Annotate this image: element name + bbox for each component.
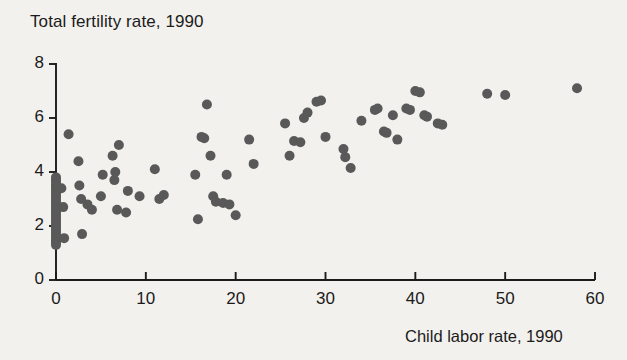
data-point [114,140,124,150]
data-point [382,128,392,138]
data-point [316,95,326,105]
y-tick-label-6: 6 [10,107,44,127]
scatter-plot-figure: Total fertility rate, 1990 Child labor r… [0,0,627,360]
x-tick-label-10: 10 [121,289,171,309]
data-point [112,205,122,215]
data-point [373,104,383,114]
data-point [199,133,209,143]
data-point [572,83,582,93]
data-points [51,83,582,250]
data-point [110,167,120,177]
data-point [121,208,131,218]
x-tick-label-30: 30 [301,289,351,309]
data-point [356,116,366,126]
data-point [74,181,84,191]
x-tick-label-40: 40 [390,289,440,309]
x-tick-label-0: 0 [31,289,81,309]
data-point [280,118,290,128]
data-point [58,202,68,212]
data-point [415,87,425,97]
data-point [193,214,203,224]
data-point [249,159,259,169]
data-point [98,170,108,180]
x-tick-label-50: 50 [480,289,530,309]
data-point [190,170,200,180]
data-point [437,120,447,130]
data-point [87,205,97,215]
data-point [321,132,331,142]
y-tick-label-8: 8 [10,53,44,73]
y-tick-label-2: 2 [10,215,44,235]
data-point [73,156,83,166]
data-point [388,110,398,120]
data-point [231,210,241,220]
x-tick-label-20: 20 [211,289,261,309]
data-point [64,129,74,139]
data-point [59,233,69,243]
data-point [244,135,254,145]
data-point [295,137,305,147]
data-point [150,164,160,174]
data-point [392,135,402,145]
data-point [222,170,232,180]
data-point [56,183,66,193]
data-point [123,186,133,196]
data-point [285,151,295,161]
data-point [96,191,106,201]
data-point [77,229,87,239]
data-point [108,151,118,161]
data-point [224,199,234,209]
data-point [340,152,350,162]
data-point [500,90,510,100]
data-point [159,190,169,200]
y-tick-label-0: 0 [10,269,44,289]
data-point [346,163,356,173]
data-point [51,240,61,250]
data-point [303,108,313,118]
data-point [422,112,432,122]
data-point [206,151,216,161]
data-point [405,105,415,115]
y-tick-label-4: 4 [10,161,44,181]
data-point [202,100,212,110]
data-point [135,191,145,201]
x-tick-label-60: 60 [570,289,620,309]
data-point [482,89,492,99]
